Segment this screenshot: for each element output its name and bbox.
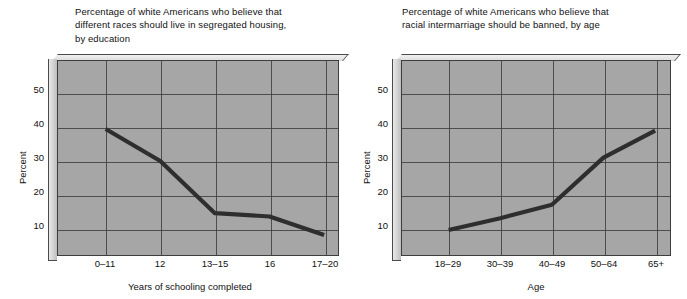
charts-container: Percentage of white Americans who believ…	[0, 0, 687, 299]
y-tick-label: 30	[362, 152, 388, 163]
x-tick-label: 50–64	[591, 258, 617, 269]
y-tick-label: 20	[18, 186, 44, 197]
plot-area	[401, 60, 671, 256]
bevel-left-edge	[48, 59, 57, 261]
x-tick-label: 40–49	[539, 258, 565, 269]
x-tick-label: 13–15	[202, 258, 228, 269]
data-series-line	[402, 61, 670, 255]
x-tick-label: 0–11	[95, 258, 115, 269]
chart-title: Percentage of white Americans who believ…	[75, 5, 340, 45]
x-axis-title: Age	[528, 281, 545, 292]
bevel-left-edge	[392, 59, 401, 261]
data-series-line	[58, 61, 338, 255]
chart-title: Percentage of white Americans who believ…	[402, 5, 677, 32]
x-tick-label: 65+	[648, 258, 664, 269]
y-tick-label: 30	[18, 152, 44, 163]
y-tick-label: 20	[362, 186, 388, 197]
x-tick-label: 18–29	[435, 258, 461, 269]
plot-area	[57, 60, 339, 256]
x-tick-label: 17–20	[312, 258, 338, 269]
x-tick-label: 16	[265, 258, 276, 269]
y-tick-label: 40	[18, 118, 44, 129]
y-tick-label: 40	[362, 118, 388, 129]
chart-panel-segregated-housing: Percentage of white Americans who believ…	[0, 0, 344, 299]
x-tick-label: 12	[155, 258, 166, 269]
plot-frame	[392, 54, 671, 256]
x-tick-label: 30–39	[487, 258, 513, 269]
chart-panel-intermarriage: Percentage of white Americans who believ…	[344, 0, 687, 299]
y-tick-label: 10	[18, 220, 44, 231]
y-tick-label: 50	[362, 84, 388, 95]
plot-frame	[48, 54, 339, 256]
x-axis-title: Years of schooling completed	[128, 281, 252, 292]
y-tick-label: 50	[18, 84, 44, 95]
y-tick-label: 10	[362, 220, 388, 231]
